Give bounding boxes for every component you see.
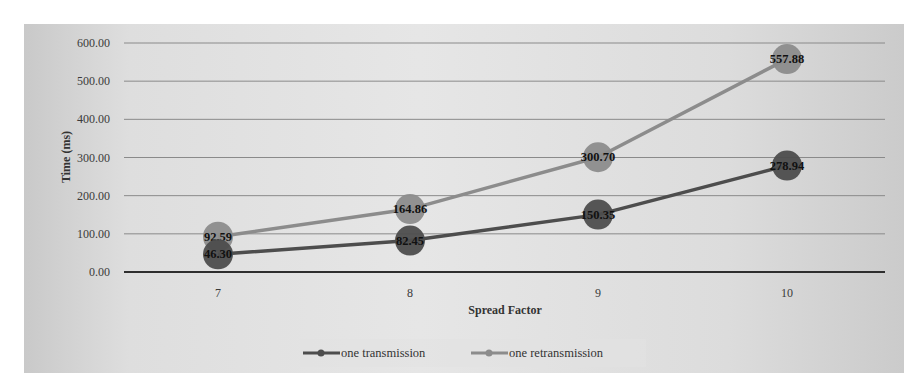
y-tick-label: 200.00: [77, 189, 110, 203]
data-label: 46.30: [204, 247, 232, 261]
series-one-transmission: 46.3082.45150.35278.94: [203, 151, 805, 270]
x-tick-label: 8: [407, 286, 413, 300]
y-tick-label: 500.00: [77, 74, 110, 88]
series-one-retransmission: 92.59164.86300.70557.88: [203, 44, 804, 252]
series-line: [218, 166, 787, 255]
legend-label: one transmission: [341, 346, 426, 360]
y-tick-label: 300.00: [77, 151, 110, 165]
y-tick-label: 0.00: [89, 265, 110, 279]
legend-marker-icon: [318, 350, 325, 357]
legend-marker-icon: [486, 350, 493, 357]
legend: one transmissionone retransmission: [300, 339, 646, 367]
legend-label: one retransmission: [509, 346, 604, 360]
y-tick-label: 100.00: [77, 227, 110, 241]
data-label: 164.86: [393, 202, 427, 216]
data-label: 82.45: [396, 234, 424, 248]
gridlines: [124, 43, 885, 272]
series-group: 92.59164.86300.70557.8846.3082.45150.352…: [203, 44, 805, 269]
x-axis-title: Spread Factor: [468, 303, 542, 317]
line-chart: 0.00100.00200.00300.00400.00500.00600.00…: [0, 0, 921, 392]
series-line: [218, 59, 787, 237]
data-label: 278.94: [770, 159, 805, 173]
x-tick-label: 7: [215, 286, 221, 300]
data-label: 150.35: [581, 208, 615, 222]
x-tick-label: 10: [781, 286, 793, 300]
x-axis: 78910: [215, 286, 793, 300]
y-axis: 0.00100.00200.00300.00400.00500.00600.00: [77, 36, 110, 279]
x-tick-label: 9: [595, 286, 601, 300]
y-axis-title: Time (ms): [59, 131, 73, 183]
y-tick-label: 400.00: [77, 112, 110, 126]
y-tick-label: 600.00: [77, 36, 110, 50]
data-label: 300.70: [581, 150, 615, 164]
data-label: 557.88: [770, 52, 804, 66]
